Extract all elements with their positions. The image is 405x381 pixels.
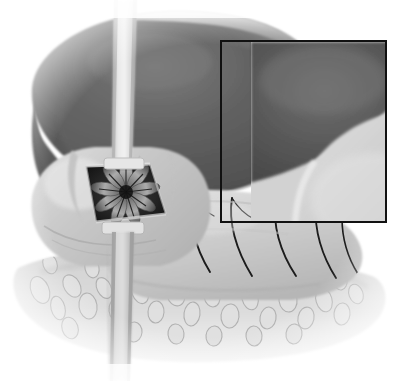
- top-fade: [0, 0, 405, 18]
- inset-view: [222, 42, 387, 223]
- detail-inset-panel: [220, 40, 387, 223]
- bottom-fade: [0, 364, 405, 381]
- medical-illustration-figure: Nissen fundoplication with crural repair…: [0, 0, 405, 381]
